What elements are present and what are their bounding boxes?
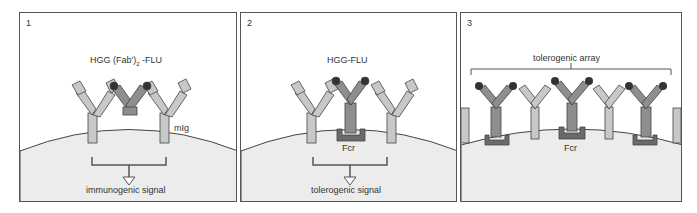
array-bracket <box>471 63 671 75</box>
panel-2: 2 HGG-FLU Fcr tolerogenic signal <box>240 12 457 202</box>
signal-label: immunogenic signal <box>86 185 166 195</box>
hapten-array <box>475 77 667 90</box>
panel-number: 1 <box>26 18 31 28</box>
panel-number: 3 <box>467 18 472 28</box>
panel-number: 2 <box>247 18 252 28</box>
receptor-label: mIg <box>174 123 189 133</box>
receptor-label: Fcr <box>342 143 355 153</box>
hgg-flu-antigen <box>332 77 369 133</box>
panel-1-illustration <box>20 13 237 202</box>
signal-label: tolerogenic signal <box>311 185 381 195</box>
antigen-ig-array <box>479 81 663 137</box>
antigen-label: HGG-FLU <box>327 55 368 65</box>
fab2-antigen <box>110 82 151 115</box>
antigen-label: HGG (Fab')2 -FLU <box>90 55 162 67</box>
antigen-suffix: -FLU <box>140 55 163 65</box>
panel-2-illustration <box>241 13 457 202</box>
panel-1: 1 HGG (Fab')2 -FLU mIg immunogenic signa… <box>19 12 237 202</box>
receptor-label: Fcr <box>564 143 577 153</box>
array-label: tolerogenic array <box>533 53 600 63</box>
panel-3-illustration <box>461 13 682 202</box>
antigen-label-text: HGG (Fab') <box>90 55 136 65</box>
panel-3: 3 tolerogenic array Fcr <box>460 12 682 202</box>
